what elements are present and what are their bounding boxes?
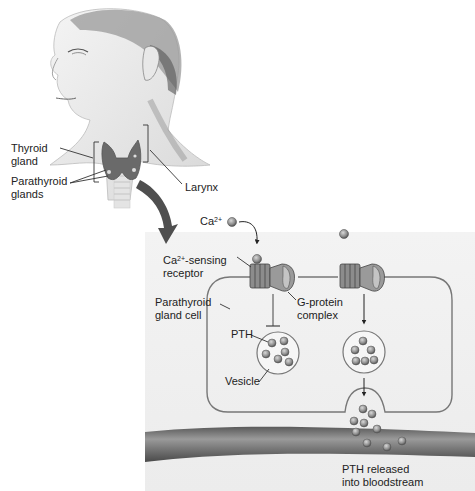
parathyroid-dot <box>132 168 136 172</box>
calcium-sensing-receptor <box>250 255 295 292</box>
blood-vessel <box>145 427 475 462</box>
calcium-ion <box>228 218 237 227</box>
label-text: complex <box>297 309 343 322</box>
label-thyroid-gland: Thyroid gland <box>11 142 48 168</box>
calcium-ion <box>340 230 349 239</box>
label-calcium-ion: Ca2+ <box>200 215 222 228</box>
binding-arrow-icon <box>239 222 257 242</box>
label-text: -sensing <box>185 254 227 266</box>
label-pth-released: PTH released into bloodstream <box>342 463 423 489</box>
zoom-arrow-icon <box>136 180 178 244</box>
label-vesicle: Vesicle <box>225 375 260 388</box>
parathyroid-dot <box>133 154 136 157</box>
label-pth: PTH <box>231 328 253 341</box>
label-superscript: 2+ <box>214 216 222 223</box>
label-text: Thyroid <box>11 142 48 155</box>
label-text: Parathyroid <box>155 296 211 309</box>
label-text: receptor <box>163 267 227 280</box>
label-text: PTH <box>231 328 253 340</box>
calcium-sensing-receptor-2 <box>340 264 385 291</box>
label-text: gland cell <box>155 309 211 322</box>
label-text: G-protein <box>297 296 343 309</box>
label-text: glands <box>11 188 67 201</box>
parathyroid-dot <box>107 170 111 174</box>
label-text: PTH released <box>342 463 423 476</box>
label-larynx: Larynx <box>185 181 218 194</box>
vesicle-active <box>343 331 385 373</box>
label-text: Vesicle <box>225 375 260 387</box>
label-text: into bloodstream <box>342 476 423 489</box>
label-parathyroid-glands: Parathyroid glands <box>11 175 67 201</box>
label-text: gland <box>11 155 48 168</box>
label-g-protein-complex: G-protein complex <box>297 296 343 322</box>
label-text: Ca <box>200 215 214 227</box>
label-text: Parathyroid <box>11 175 67 188</box>
vesicle-inhibited <box>257 332 299 374</box>
label-superscript: 2+ <box>177 255 185 262</box>
label-parathyroid-gland-cell: Parathyroid gland cell <box>155 296 211 322</box>
label-text: Larynx <box>185 181 218 193</box>
diagram-artwork <box>0 0 475 491</box>
label-text: Ca <box>163 254 177 266</box>
calcium-ion-bound <box>253 255 262 264</box>
label-calcium-sensing-receptor: Ca2+-sensing receptor <box>163 254 227 280</box>
